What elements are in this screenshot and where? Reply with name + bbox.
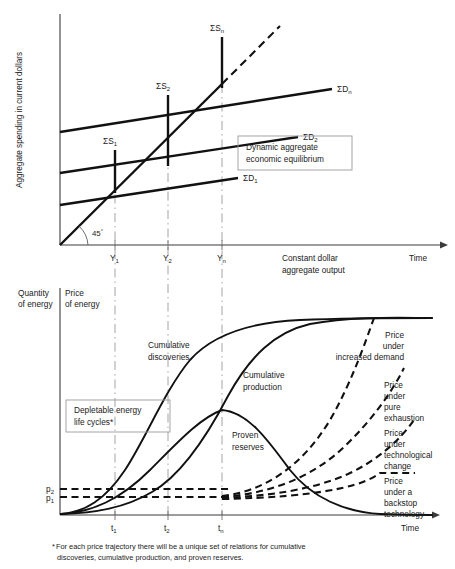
lower-price-label-line1: Price <box>65 288 84 298</box>
label-pure-exhaustion-line2: under <box>384 391 405 401</box>
supply-label-2: ΣS2 <box>156 81 171 92</box>
label-backstop-technology-line4: technology <box>384 509 425 519</box>
upper-xtick-label-y1: Y1 <box>110 253 120 264</box>
demand-line-1 <box>60 178 238 205</box>
label-cumulative-discoveries-line1: Cumulative <box>148 340 190 350</box>
supply-label-1: ΣS1 <box>103 136 118 147</box>
label-increased-demand-line3: increased demand <box>336 352 405 362</box>
angle-label: 45° <box>92 228 103 238</box>
upper-time-label: Time <box>409 253 428 263</box>
label-technological-change-line4: change <box>384 461 412 471</box>
label-backstop-technology-line3: backstop <box>384 498 418 508</box>
lower-x-axis-arrowhead <box>432 512 440 519</box>
label-cumulative-production-line2: production <box>243 382 282 392</box>
lower-xtick-label-tn: tn <box>218 523 224 534</box>
curve-cumulative-production <box>61 318 432 514</box>
lower-curve-labels: Cumulative discoveries Cumulative produc… <box>148 340 285 452</box>
label-technological-change-line2: under <box>384 439 405 449</box>
lower-xtick-label-t1: t1 <box>111 523 117 534</box>
label-increased-demand-line2: under <box>383 341 404 351</box>
upper-xtick-label-y2: Y2 <box>163 253 173 264</box>
curve-price-increased-demand <box>222 318 374 496</box>
curve-cumulative-discoveries <box>61 318 432 514</box>
label-cumulative-production-line1: Cumulative <box>243 370 285 380</box>
forty-five-degree-line <box>60 84 222 245</box>
label-pure-exhaustion-line4: exhaustion <box>384 413 425 423</box>
demand-label-n: ΣDn <box>337 84 351 95</box>
lower-xtick-label-t2: t2 <box>164 523 170 534</box>
upper-x-axis-label-line2: aggregate output <box>282 265 345 275</box>
upper-x-ticks: Y1 Y2 Yn <box>110 240 226 264</box>
upper-y-axis-label: Aggregate spending in current dollars <box>15 52 24 188</box>
figure-container: Aggregate spending in current dollars 45… <box>0 0 455 569</box>
label-backstop-technology-line1: Price <box>384 476 403 486</box>
label-backstop-technology-line2: under a <box>384 487 413 497</box>
label-proven-reserves-line2: reserves <box>232 442 264 452</box>
demand-label-1: ΣD1 <box>243 173 258 184</box>
label-proven-reserves-line1: Proven <box>232 430 259 440</box>
upper-xtick-label-yn: Yn <box>217 253 226 264</box>
label-cumulative-discoveries-line2: discoveries <box>148 352 190 362</box>
label-pure-exhaustion-line1: Price <box>384 380 403 390</box>
label-pure-exhaustion-line3: pure <box>384 402 401 412</box>
lower-annotation-line1: Depletable energy <box>74 405 142 415</box>
supply-label-n: ΣSn <box>210 23 224 34</box>
angle-arc <box>79 226 88 245</box>
price-trajectory-labels: Price under increased demand Price under… <box>336 330 433 519</box>
upper-x-axis-arrowhead <box>440 242 448 249</box>
upper-annotation-line2: economic equilibrium <box>246 154 324 164</box>
upper-chart: Aggregate spending in current dollars 45… <box>15 14 448 275</box>
lower-time-label: Time <box>401 523 420 533</box>
lower-price-label-line2: of energy <box>65 299 100 309</box>
lower-annotation-line2: life cycles* <box>74 417 114 427</box>
label-increased-demand-line1: Price <box>385 330 404 340</box>
upper-boxed-annotation: Dynamic aggregate economic equilibrium <box>238 136 352 170</box>
lower-quantity-label-line2: of energy <box>18 299 53 309</box>
footnote-line2: discoveries, cumulative production, and … <box>57 553 244 562</box>
label-technological-change-line1: Price <box>384 428 403 438</box>
lower-chart: Quantity of energy Price of energy p2 p1 <box>18 288 440 534</box>
upper-x-axis-label-line1: Constant dollar <box>282 253 338 263</box>
label-technological-change-line3: technological <box>384 450 433 460</box>
forty-five-degree-line-extension <box>222 26 280 84</box>
economics-energy-figure: Aggregate spending in current dollars 45… <box>0 0 455 569</box>
demand-line-n <box>60 89 332 132</box>
footnote: *For each price trajectory there will be… <box>52 542 306 562</box>
footnote-line1: *For each price trajectory there will be… <box>52 542 306 551</box>
lower-quantity-label-line1: Quantity <box>18 288 50 298</box>
upper-annotation-line1: Dynamic aggregate <box>246 142 318 152</box>
